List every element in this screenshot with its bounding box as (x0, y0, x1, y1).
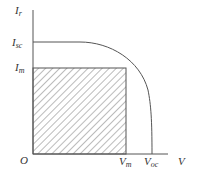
origin-label: O (20, 154, 28, 166)
isc-label: Isc (11, 36, 23, 50)
vm-label: Vm (119, 155, 132, 169)
im-label: Im (14, 61, 25, 75)
iv-curve-diagram: Ir Isc Im O Vm Voc V (0, 0, 201, 176)
y-axis-label: Ir (14, 4, 23, 18)
x-axis-label: V (178, 155, 186, 167)
voc-label: Voc (144, 155, 159, 169)
max-power-rectangle (33, 68, 126, 154)
